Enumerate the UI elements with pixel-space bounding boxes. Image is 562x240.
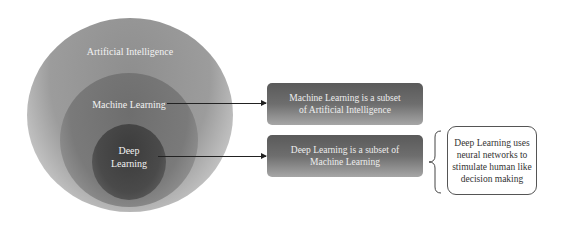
callout-line: decision making <box>452 173 532 185</box>
ml-subset-box: Machine Learning is a subset of Artifici… <box>267 83 423 125</box>
dl-label: Deep Learning <box>95 144 163 170</box>
callout-line: neural networks to <box>452 149 532 161</box>
dl-subset-line1: Deep Learning is a subset of <box>291 144 399 156</box>
dl-label-line1: Deep <box>95 144 163 157</box>
callout-line: Deep Learning uses <box>452 137 532 149</box>
ml-subset-line2: of Artificial Intelligence <box>289 104 400 116</box>
ml-arrow-icon <box>167 103 266 104</box>
ml-subset-line1: Machine Learning is a subset <box>289 92 400 104</box>
dl-arrow-icon <box>158 156 266 157</box>
ml-label: Machine Learning <box>70 98 188 111</box>
callout-line: stimulate human like <box>452 161 532 173</box>
dl-subset-line2: Machine Learning <box>291 156 399 168</box>
curly-brace-icon <box>428 130 442 194</box>
ai-label: Artificial Intelligence <box>40 45 220 58</box>
dl-label-line2: Learning <box>95 157 163 170</box>
dl-description-callout: Deep Learning uses neural networks to st… <box>447 126 537 195</box>
dl-subset-box: Deep Learning is a subset of Machine Lea… <box>267 135 423 177</box>
